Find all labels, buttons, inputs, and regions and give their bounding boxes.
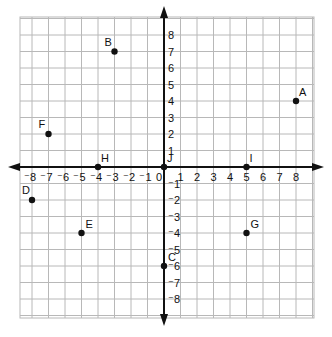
x-tick-label: 7: [276, 171, 282, 183]
x-tick-label: 5: [243, 171, 249, 183]
y-tick-label: 8: [168, 29, 174, 41]
point-label-h: H: [101, 152, 109, 164]
y-tick-label: 5: [168, 79, 174, 91]
y-tick-label: ⁻2: [168, 194, 180, 206]
x-tick-label: 6: [260, 171, 266, 183]
point-e: [78, 230, 84, 236]
y-tick-label: ⁻3: [168, 211, 180, 223]
coordinate-plane: ⁻8⁻7⁻6⁻5⁻4⁻3⁻2⁻112345678⁻8⁻7⁻6⁻5⁻4⁻3⁻2⁻1…: [0, 0, 332, 337]
y-tick-label: 3: [168, 112, 174, 124]
point-label-d: D: [22, 184, 30, 196]
y-tick-label: ⁻1: [168, 178, 180, 190]
point-g: [243, 230, 249, 236]
x-axis-right-arrow-icon: [312, 163, 324, 171]
y-tick-label: ⁻8: [168, 293, 180, 305]
x-tick-label: ⁻7: [40, 171, 52, 183]
origin-label: 0: [156, 171, 162, 183]
x-tick-label: ⁻8: [24, 171, 36, 183]
point-j: [161, 164, 167, 170]
point-label-e: E: [86, 218, 93, 230]
x-tick-label: 8: [293, 171, 299, 183]
y-axis-up-arrow-icon: [160, 6, 168, 18]
point-label-c: C: [168, 251, 176, 263]
y-tick-label: ⁻4: [168, 227, 180, 239]
x-tick-label: 4: [227, 171, 233, 183]
y-tick-label: 2: [168, 128, 174, 140]
x-tick-label: ⁻1: [139, 171, 151, 183]
y-tick-label: ⁻7: [168, 277, 180, 289]
y-tick-label: 6: [168, 62, 174, 74]
point-label-a: A: [299, 86, 307, 98]
point-label-g: G: [251, 218, 260, 230]
point-label-b: B: [105, 36, 112, 48]
point-label-j: J: [167, 152, 173, 164]
x-tick-label: ⁻4: [90, 171, 102, 183]
point-label-i: I: [250, 152, 253, 164]
x-tick-label: 2: [194, 171, 200, 183]
point-a: [293, 98, 299, 104]
x-tick-label: ⁻2: [123, 171, 135, 183]
y-tick-label: 4: [168, 95, 174, 107]
y-axis-down-arrow-icon: [160, 314, 168, 326]
point-i: [243, 164, 249, 170]
point-f: [45, 131, 51, 137]
y-tick-label: 7: [168, 46, 174, 58]
point-b: [111, 48, 117, 54]
x-axis-left-arrow-icon: [8, 163, 20, 171]
x-tick-label: ⁻5: [73, 171, 85, 183]
x-tick-label: ⁻3: [106, 171, 118, 183]
point-c: [161, 263, 167, 269]
point-d: [29, 197, 35, 203]
point-label-f: F: [39, 118, 46, 130]
x-tick-label: 3: [210, 171, 216, 183]
point-h: [95, 164, 101, 170]
x-tick-label: ⁻6: [57, 171, 69, 183]
